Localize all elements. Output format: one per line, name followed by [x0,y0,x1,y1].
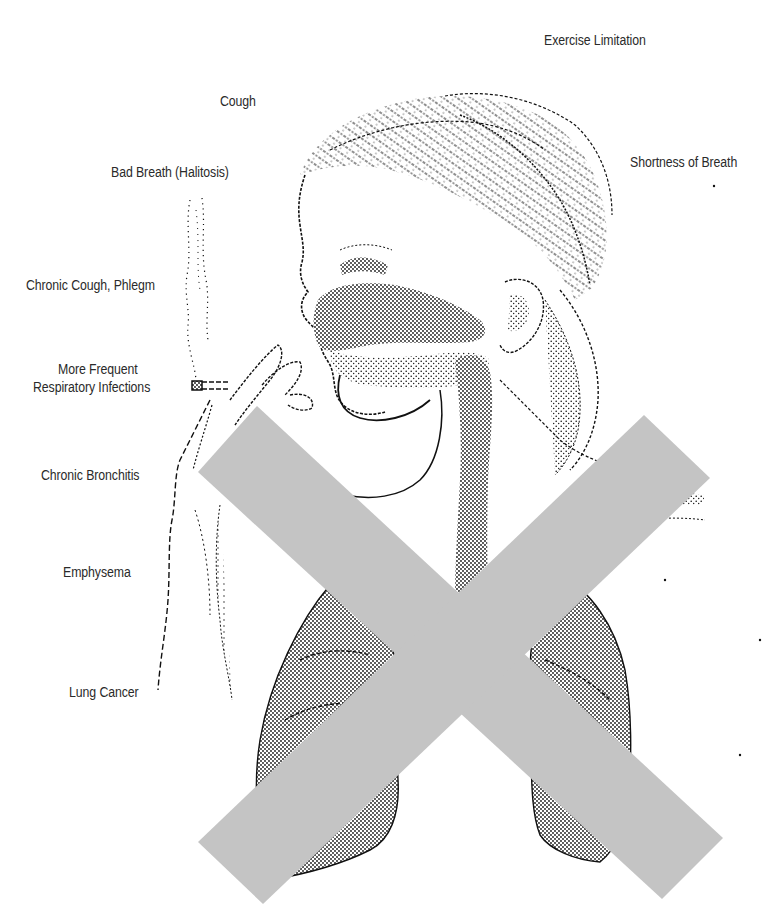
label-respiratory-infections-line1: More Frequent [58,361,138,378]
label-shortness-of-breath: Shortness of Breath [630,154,737,171]
hair [300,94,612,475]
cigarette [192,381,230,390]
right-lung [529,575,630,862]
label-exercise-limitation: Exercise Limitation [544,32,646,49]
smoker-illustration [0,0,779,918]
smoke [186,198,208,380]
hand-arm [158,345,313,700]
shoulder [640,185,761,756]
label-bad-breath: Bad Breath (Halitosis) [111,164,229,181]
left-lung [256,580,398,880]
label-respiratory-infections-line2: Respiratory Infections [33,379,150,396]
label-lung-cancer: Lung Cancer [69,684,139,701]
label-chronic-cough-phlegm: Chronic Cough, Phlegm [26,277,155,294]
label-chronic-bronchitis: Chronic Bronchitis [41,467,139,484]
label-emphysema: Emphysema [63,564,131,581]
label-cough: Cough [220,93,256,110]
